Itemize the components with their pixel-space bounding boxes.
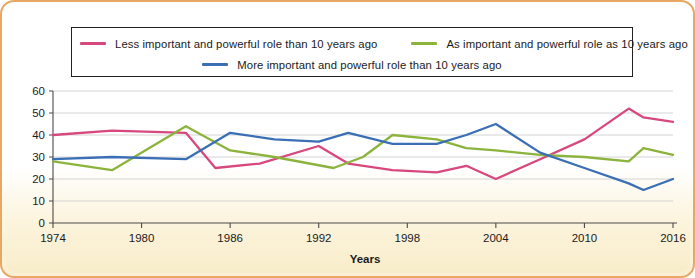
chart-plot-area: 0102030405060 19741980198619921998200420… [5, 83, 690, 273]
x-axis-ticks: 19741980198619921998200420102016 [40, 223, 686, 244]
legend-label-more-important: More important and powerful role than 10… [237, 59, 501, 71]
x-tick-label-1992: 1992 [306, 232, 332, 244]
legend-label-less-important: Less important and powerful role than 10… [115, 38, 377, 50]
legend-row-2: More important and powerful role than 10… [80, 54, 624, 75]
x-tick-label-2010: 2010 [572, 232, 598, 244]
data-series [53, 109, 673, 190]
series-line-1 [53, 126, 673, 170]
legend-item-more-important[interactable]: More important and powerful role than 10… [202, 59, 501, 71]
x-axis-title: Years [350, 253, 381, 265]
y-tick-label-40: 40 [32, 129, 45, 141]
x-tick-label-2016: 2016 [660, 232, 686, 244]
legend-item-less-important[interactable]: Less important and powerful role than 10… [80, 38, 377, 50]
x-tick-label-1974: 1974 [40, 232, 66, 244]
x-tick-label-1998: 1998 [394, 232, 420, 244]
y-tick-label-10: 10 [32, 195, 45, 207]
legend-swatch-more-important [202, 63, 228, 66]
y-tick-label-0: 0 [39, 217, 45, 229]
legend-label-as-important: As important and powerful role as 10 yea… [446, 38, 687, 50]
x-tick-label-2004: 2004 [483, 232, 509, 244]
y-tick-label-60: 60 [32, 85, 45, 97]
legend-swatch-less-important [80, 42, 106, 45]
y-tick-label-50: 50 [32, 107, 45, 119]
line-chart-svg: 0102030405060 19741980198619921998200420… [5, 83, 690, 273]
legend-swatch-as-important [411, 42, 437, 45]
chart-card-inner: Less important and powerful role than 10… [5, 5, 690, 273]
x-tick-label-1986: 1986 [217, 232, 243, 244]
chart-legend: Less important and powerful role than 10… [71, 27, 633, 77]
legend-row-1: Less important and powerful role than 10… [80, 33, 624, 54]
y-axis-ticks: 0102030405060 [32, 85, 53, 229]
series-line-0 [53, 109, 673, 179]
gridlines [53, 91, 673, 201]
chart-card: Less important and powerful role than 10… [0, 0, 695, 278]
y-tick-label-30: 30 [32, 151, 45, 163]
legend-item-as-important[interactable]: As important and powerful role as 10 yea… [411, 38, 687, 50]
y-tick-label-20: 20 [32, 173, 45, 185]
x-tick-label-1980: 1980 [129, 232, 155, 244]
